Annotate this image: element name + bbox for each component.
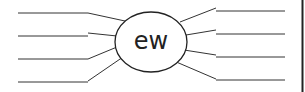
word-web-diagram: [0, 0, 305, 92]
right-spoke-1: [180, 8, 216, 22]
left-spoke-3: [88, 47, 117, 59]
center-ellipse: [115, 12, 187, 72]
left-spoke-2: [88, 33, 117, 36]
left-spoke-1: [88, 13, 125, 21]
right-spoke-4: [174, 61, 216, 79]
right-spoke-2: [186, 30, 216, 35]
left-spoke-4: [88, 57, 123, 81]
right-spoke-3: [184, 50, 216, 55]
